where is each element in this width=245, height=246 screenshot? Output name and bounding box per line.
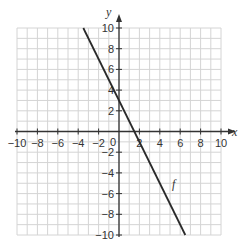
x-tick-label: 4 (157, 137, 163, 149)
function-label-f: f (172, 177, 177, 191)
y-tick-label: −4 (101, 167, 114, 179)
y-tick-label: −8 (101, 208, 114, 220)
x-tick-label: 10 (215, 137, 227, 149)
y-axis-arrow-icon (116, 14, 122, 22)
x-tick-label: −6 (52, 137, 65, 149)
y-axis-label: y (105, 5, 112, 19)
y-tick-label: 6 (108, 63, 114, 75)
origin-label: 0 (110, 136, 116, 148)
coordinate-plane: −10−8−6−4−2246810−10−8−6−4−2246810 f x y… (0, 0, 245, 246)
x-tick-label: −10 (8, 137, 27, 149)
x-tick-label: −8 (31, 137, 44, 149)
x-tick-label: 6 (177, 137, 183, 149)
x-axis-label: x (231, 125, 238, 139)
y-tick-label: −10 (95, 229, 114, 241)
y-tick-label: 2 (108, 105, 114, 117)
y-tick-label: −2 (101, 146, 114, 158)
y-tick-label: 8 (108, 43, 114, 55)
x-tick-label: −4 (72, 137, 85, 149)
x-tick-label: 8 (198, 137, 204, 149)
y-tick-label: −6 (101, 188, 114, 200)
y-tick-label: 10 (102, 22, 114, 34)
